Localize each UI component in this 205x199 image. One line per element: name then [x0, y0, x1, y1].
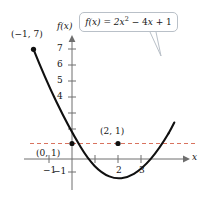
point-marker-neg1-7: [31, 47, 36, 52]
y-tick-label-7: 7: [57, 44, 63, 53]
formula-mid: − 4: [129, 17, 148, 27]
graph-figure: f(x) = 2x2 − 4x + 1 f(x) x 7 6 5 4 −1 −1…: [0, 0, 205, 199]
point-label-neg1-7: (−1, 7): [11, 30, 43, 39]
x-tick-label-2: 2: [116, 166, 122, 175]
formula-arg: (x) = 2: [88, 17, 119, 27]
x-tick-label-neg1: −1: [43, 166, 56, 175]
parabola-right-branch: [169, 123, 175, 134]
formula-callout-box: f(x) = 2x2 − 4x + 1: [79, 12, 178, 32]
x-tick-label-3: 3: [139, 166, 145, 175]
point-marker-2-1: [115, 141, 120, 146]
callout-tail: [150, 32, 161, 56]
formula-tail: + 1: [153, 17, 172, 27]
x-axis-label: x: [192, 153, 197, 162]
y-tick-label-4: 4: [57, 92, 63, 101]
y-tick-label-5: 5: [57, 76, 63, 85]
y-axis-label: f(x): [57, 22, 72, 31]
point-label-2-1: (2, 1): [100, 127, 124, 136]
formula-text: f(x) = 2x2 − 4x + 1: [85, 17, 172, 27]
point-label-0-1: (0, 1): [36, 149, 60, 158]
point-marker-0-1: [69, 141, 74, 146]
y-tick-label-6: 6: [57, 60, 63, 69]
